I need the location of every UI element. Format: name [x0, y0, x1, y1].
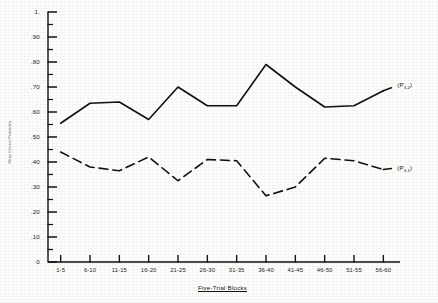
- series-label-paren: ): [410, 164, 412, 171]
- x-axis-title: Five-Trial Blocks: [198, 284, 247, 291]
- series-label-p31: (P3,1): [397, 164, 412, 173]
- y-tick-label: .20: [16, 208, 40, 215]
- series-label-paren: ): [410, 81, 412, 88]
- data-series-group: [61, 65, 392, 196]
- y-tick-label: .90: [16, 33, 40, 40]
- y-tick-label: .30: [16, 183, 40, 190]
- chart-plot-area: [0, 0, 438, 303]
- y-tick-label: .40: [16, 158, 40, 165]
- y-tick-label: .60: [16, 108, 40, 115]
- y-tick-label: .50: [16, 133, 40, 140]
- series-label-p32: (P3,2): [397, 81, 412, 90]
- y-tick-label: 1.: [16, 8, 40, 15]
- series-line-p31: [61, 152, 384, 196]
- figure-container: Mean Correct Probability 1..90.80.70.60.…: [0, 0, 438, 303]
- y-tick-label: .70: [16, 83, 40, 90]
- axes: [48, 12, 400, 262]
- x-tick-label: 56-60: [366, 267, 400, 273]
- series-leader-1: [383, 169, 391, 170]
- y-tick-label: 0: [16, 258, 40, 265]
- series-line-p32: [61, 65, 384, 124]
- y-tick-label: .10: [16, 233, 40, 240]
- series-leader-0: [383, 88, 391, 91]
- y-tick-label: .80: [16, 58, 40, 65]
